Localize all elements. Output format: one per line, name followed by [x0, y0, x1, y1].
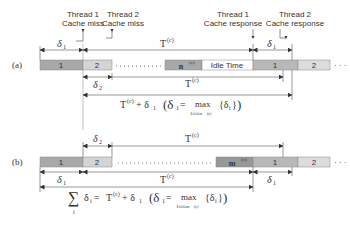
svg-text:n: n	[179, 62, 184, 71]
svg-text:∑: ∑	[68, 189, 79, 207]
svg-text:{δ: {δ	[219, 99, 229, 110]
delta2-label-b: δ 2	[93, 133, 102, 145]
svg-text:+ δ: + δ	[136, 99, 149, 110]
svg-text:δ: δ	[57, 38, 62, 49]
svg-text:m: m	[229, 159, 236, 168]
svg-text:Thread 1: Thread 1	[217, 10, 250, 19]
delta2-label-a: δ 2	[93, 79, 102, 91]
svg-text:Cache miss: Cache miss	[102, 19, 144, 28]
formula-b: ∑ i δ i = T (c) + δ 1 (δ 1 = max 1≤i≤m (…	[68, 189, 227, 215]
svg-text:(δ: (δ	[163, 97, 173, 112]
svg-text:i: i	[90, 198, 92, 204]
svg-text:2: 2	[99, 139, 102, 145]
bar-thread-n-a	[165, 60, 202, 70]
svg-text:i: i	[215, 198, 217, 204]
svg-text:(c): (c)	[113, 191, 120, 198]
T-c-label-b-top: T (c)	[185, 132, 199, 144]
svg-text:1: 1	[176, 105, 179, 111]
svg-text:δ: δ	[84, 192, 89, 203]
svg-text:i: i	[229, 105, 231, 111]
svg-text:Cache response: Cache response	[204, 19, 263, 28]
pointer-lines-a	[76, 29, 286, 41]
svg-text:1≤i≤m: 1≤i≤m	[176, 204, 189, 209]
thread1-cache-response-label: Thread 1 Cache response	[204, 10, 263, 28]
svg-text:1: 1	[59, 158, 64, 167]
svg-text:(δ: (δ	[149, 190, 159, 205]
svg-text:Cache response: Cache response	[266, 19, 325, 28]
svg-text:2: 2	[99, 85, 102, 91]
svg-text:T: T	[106, 192, 112, 203]
svg-text:T: T	[185, 133, 191, 144]
svg-text:1≤i≤n: 1≤i≤n	[190, 111, 202, 116]
svg-text:Cache miss: Cache miss	[62, 19, 104, 28]
svg-text:1: 1	[63, 180, 66, 186]
svg-text:δ: δ	[267, 38, 272, 49]
svg-text:δ: δ	[93, 133, 98, 144]
thread2-cache-response-label: Thread 2 Cache response	[266, 10, 325, 28]
svg-text:1: 1	[273, 61, 278, 70]
svg-text:T: T	[160, 38, 166, 49]
svg-text:δ: δ	[267, 174, 272, 185]
svg-text:· · ·: · · ·	[334, 61, 346, 70]
svg-text:1: 1	[139, 198, 142, 204]
svg-text:=: =	[94, 192, 100, 203]
row-label-a: (a)	[12, 60, 22, 70]
svg-text:+ δ: + δ	[122, 192, 135, 203]
svg-text:i: i	[73, 209, 75, 215]
svg-text:T: T	[120, 99, 126, 110]
svg-text:2: 2	[95, 158, 100, 167]
svg-text:Thread 2: Thread 2	[279, 10, 312, 19]
svg-text:1: 1	[273, 44, 276, 50]
svg-text:): )	[223, 190, 227, 205]
delta1-label-b-left: δ 1	[57, 174, 66, 186]
svg-text:2: 2	[312, 158, 317, 167]
delta1-label-a-right: δ 1	[267, 38, 276, 50]
svg-text:(c): (c)	[241, 157, 247, 162]
formula-a: T (c) + δ 1 (δ 1 = max 1≤i≤n (c) {δ i } …	[120, 97, 241, 116]
T-c-label-a-top: T (c)	[160, 37, 174, 49]
svg-text:2: 2	[312, 61, 317, 70]
svg-text:): )	[237, 97, 241, 112]
svg-text:T: T	[160, 174, 166, 185]
svg-text:max: max	[181, 192, 197, 202]
svg-text:1: 1	[153, 105, 156, 111]
svg-text:Idle Time: Idle Time	[211, 61, 244, 70]
thread2-cache-miss-label: Thread 2 Cache miss	[102, 10, 144, 28]
svg-text:1: 1	[273, 158, 278, 167]
svg-text:(c): (c)	[167, 173, 174, 180]
bar-row-a	[40, 60, 330, 70]
svg-text:=: =	[180, 99, 186, 110]
svg-text:(c): (c)	[192, 77, 199, 84]
svg-text:· · ·: · · ·	[334, 158, 346, 167]
svg-text:(c): (c)	[127, 98, 134, 105]
svg-text:=: =	[166, 192, 172, 203]
svg-text:(c): (c)	[192, 132, 199, 139]
svg-text:δ: δ	[93, 79, 98, 90]
svg-text:δ: δ	[57, 174, 62, 185]
timing-diagram: Thread 1 Cache miss Thread 2 Cache miss …	[0, 0, 350, 227]
svg-text:1: 1	[59, 61, 64, 70]
T-c-label-a-bottom: T (c)	[185, 77, 199, 89]
svg-text:1: 1	[273, 180, 276, 186]
svg-text:(c): (c)	[189, 60, 195, 65]
bar-row-b	[40, 157, 330, 167]
row-label-b: (b)	[12, 157, 23, 167]
dim-top-a	[40, 44, 292, 130]
svg-text:T: T	[185, 78, 191, 89]
svg-text:{δ: {δ	[205, 192, 215, 203]
svg-text:Thread 2: Thread 2	[107, 10, 140, 19]
thread1-cache-miss-label: Thread 1 Cache miss	[62, 10, 104, 28]
T-c-label-b-bottom: T (c)	[160, 173, 174, 185]
svg-text:(c): (c)	[207, 111, 212, 116]
svg-text:2: 2	[95, 61, 100, 70]
svg-text:1: 1	[63, 44, 66, 50]
svg-text:1: 1	[162, 198, 165, 204]
svg-text:max: max	[195, 99, 211, 109]
delta1-label-b-right: δ 1	[267, 174, 276, 186]
svg-text:(c): (c)	[167, 37, 174, 44]
svg-text:Thread 1: Thread 1	[67, 10, 100, 19]
dim-top-b	[83, 142, 283, 157]
delta1-label-a-left: δ 1	[57, 38, 66, 50]
svg-text:(c): (c)	[194, 204, 199, 209]
